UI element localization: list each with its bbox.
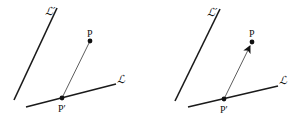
- line-L: [26, 84, 116, 107]
- segment-P-prime-to-P: [62, 41, 90, 98]
- point-P: [250, 40, 255, 45]
- label-L: ℒ: [279, 74, 288, 87]
- line-L-prime: [14, 8, 57, 100]
- label-P-prime: P′: [58, 103, 66, 114]
- left-panel: ℒ′ ℒ P P′: [14, 5, 126, 114]
- label-P-prime: P′: [220, 104, 228, 115]
- label-L: ℒ: [117, 73, 126, 86]
- label-P: P: [87, 28, 93, 39]
- label-L-prime: ℒ′: [207, 6, 218, 19]
- label-L-prime: ℒ′: [45, 5, 56, 18]
- label-P: P: [249, 28, 255, 39]
- vector-P-prime-to-P: [224, 46, 250, 99]
- point-P-prime: [222, 97, 227, 102]
- point-P-prime: [60, 96, 65, 101]
- diagram-canvas: ℒ′ ℒ P P′ ℒ′ ℒ P P′: [0, 0, 301, 124]
- right-panel: ℒ′ ℒ P P′: [175, 6, 288, 115]
- point-P: [88, 39, 93, 44]
- line-L-prime: [175, 9, 220, 101]
- line-L: [188, 86, 278, 107]
